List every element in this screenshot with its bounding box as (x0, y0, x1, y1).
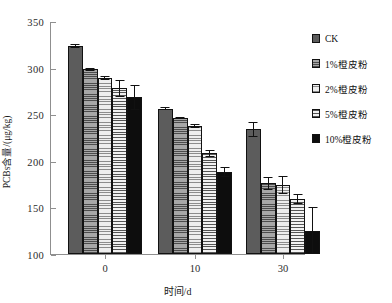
y-tick-mark (51, 162, 56, 163)
error-bar-cap-top (308, 207, 317, 208)
error-bar-cap-top (115, 80, 124, 81)
error-bar-line (134, 85, 135, 109)
bar-rect (261, 183, 276, 254)
error-bar-cap-bottom (220, 176, 229, 177)
bar-5%橙皮粉-30[interactable] (290, 21, 305, 254)
legend-label: 1%橙皮粉 (325, 57, 368, 71)
error-bar-cap-bottom (278, 193, 287, 194)
bar-rect (276, 185, 291, 254)
error-bar (115, 80, 124, 97)
bar-rect (68, 46, 83, 254)
error-bar-cap-top (264, 177, 273, 178)
error-bar-cap-bottom (100, 79, 109, 80)
error-bar-cap-bottom (264, 189, 273, 190)
legend-item-2%橙皮粉[interactable]: 2%橙皮粉 (312, 76, 390, 101)
error-bar (264, 177, 273, 190)
bar-rect (246, 129, 261, 254)
error-bar (130, 85, 139, 109)
error-bar-line (119, 80, 120, 97)
bar-rect (173, 118, 188, 254)
y-axis-title: PCBs含量/(μg/kg) (0, 115, 13, 188)
bar-10%橙皮粉-10[interactable] (217, 21, 232, 254)
legend-swatch-icon (312, 34, 320, 43)
legend-item-1%橙皮粉[interactable]: 1%橙皮粉 (312, 51, 390, 76)
error-bar-cap-top (71, 44, 80, 45)
bar-2%橙皮粉-30[interactable] (276, 21, 291, 254)
y-tick-label: 100 (27, 250, 51, 261)
error-bar (86, 68, 95, 72)
bar-1%橙皮粉-0[interactable] (83, 21, 98, 254)
bar-1%橙皮粉-30[interactable] (261, 21, 276, 254)
y-tick-label: 200 (27, 156, 51, 167)
error-bar-cap-top (190, 124, 199, 125)
x-axis-title: 时间/d (50, 283, 305, 298)
error-bar (161, 107, 170, 111)
error-bar-cap-top (278, 176, 287, 177)
legend-swatch-icon (312, 59, 320, 68)
bar-rect (127, 97, 142, 254)
error-bar-cap-top (249, 122, 258, 123)
x-tick-mark (105, 254, 106, 259)
x-tick-mark (283, 254, 284, 259)
error-bar-cap-bottom (249, 136, 258, 137)
y-tick-mark (51, 69, 56, 70)
plot-area: 10015020025030035001030 (50, 22, 305, 255)
bar-group-10 (158, 22, 232, 254)
chart-figure: PCBs含量/(μg/kg) 10015020025030035001030 时… (0, 0, 392, 303)
error-bar-line (312, 207, 313, 254)
y-tick-mark (51, 115, 56, 116)
error-bar-cap-bottom (190, 127, 199, 128)
bar-group-0 (68, 22, 142, 254)
legend-label: 5%橙皮粉 (325, 107, 368, 121)
bar-rect (112, 88, 127, 254)
error-bar (176, 117, 185, 119)
legend-swatch-icon (312, 109, 320, 118)
bar-CK-30[interactable] (246, 21, 261, 254)
error-bar-line (282, 176, 283, 195)
bar-rect (83, 69, 98, 254)
bar-2%橙皮粉-0[interactable] (98, 21, 113, 254)
bar-group-30 (246, 22, 320, 254)
error-bar-cap-top (293, 194, 302, 195)
legend-swatch-icon (312, 134, 320, 143)
error-bar-cap-top (100, 76, 109, 77)
error-bar (220, 167, 229, 176)
legend-item-CK[interactable]: CK (312, 26, 390, 51)
error-bar-cap-bottom (161, 109, 170, 110)
bar-rect (202, 153, 217, 254)
y-tick-label: 250 (27, 110, 51, 121)
bar-rect (98, 78, 113, 254)
error-bar (278, 176, 287, 195)
y-tick-label: 350 (27, 17, 51, 28)
error-bar-cap-top (86, 68, 95, 69)
bar-CK-10[interactable] (158, 21, 173, 254)
error-bar-cap-bottom (86, 70, 95, 71)
x-tick-label-0: 0 (102, 263, 107, 274)
legend-item-5%橙皮粉[interactable]: 5%橙皮粉 (312, 101, 390, 126)
error-bar-line (253, 122, 254, 137)
error-bar-cap-bottom (130, 109, 139, 110)
legend-item-10%橙皮粉[interactable]: 10%橙皮粉 (312, 126, 390, 151)
legend-label: 2%橙皮粉 (325, 82, 368, 96)
error-bar-cap-bottom (293, 203, 302, 204)
bar-rect (290, 199, 305, 254)
error-bar (71, 44, 80, 48)
error-bar-cap-top (161, 107, 170, 108)
error-bar (308, 207, 317, 254)
bar-rect (158, 109, 173, 254)
error-bar (100, 76, 109, 80)
bar-rect (188, 126, 203, 254)
bar-5%橙皮粉-10[interactable] (202, 21, 217, 254)
error-bar (293, 194, 302, 203)
bar-CK-0[interactable] (68, 21, 83, 254)
bar-1%橙皮粉-10[interactable] (173, 21, 188, 254)
bar-rect (217, 172, 232, 254)
x-tick-mark (195, 254, 196, 259)
legend-label: 10%橙皮粉 (325, 132, 372, 146)
error-bar-cap-bottom (71, 47, 80, 48)
y-tick-mark (51, 22, 56, 23)
bar-10%橙皮粉-0[interactable] (127, 21, 142, 254)
bar-2%橙皮粉-10[interactable] (188, 21, 203, 254)
bar-5%橙皮粉-0[interactable] (112, 21, 127, 254)
legend-label: CK (325, 34, 338, 44)
